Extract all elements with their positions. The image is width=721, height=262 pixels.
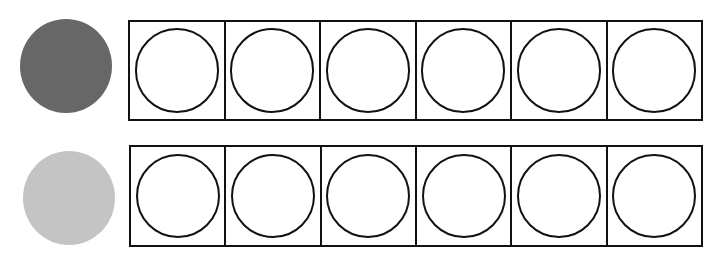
empty-slot-circle: [517, 28, 601, 112]
empty-slot-circle: [612, 28, 696, 112]
counter-light: [23, 151, 115, 245]
frame-cell: [608, 147, 701, 245]
frame-cell: [512, 22, 608, 119]
ten-frame-bottom: [129, 145, 703, 247]
counter-dark: [20, 19, 112, 113]
empty-slot-circle: [231, 154, 315, 238]
empty-slot-circle: [326, 28, 410, 112]
frame-cell: [322, 147, 417, 245]
empty-slot-circle: [517, 154, 601, 238]
frame-cell: [512, 147, 607, 245]
empty-slot-circle: [421, 28, 505, 112]
empty-slot-circle: [230, 28, 314, 112]
empty-slot-circle: [612, 154, 696, 238]
ten-frame-top: [128, 20, 703, 121]
frame-cell: [226, 22, 322, 119]
frame-cell: [131, 147, 226, 245]
empty-slot-circle: [135, 28, 219, 112]
empty-slot-circle: [422, 154, 506, 238]
frame-cell: [417, 147, 512, 245]
frame-cell: [608, 22, 702, 119]
empty-slot-circle: [326, 154, 410, 238]
frame-cell: [226, 147, 321, 245]
frame-cell: [417, 22, 513, 119]
frame-cell: [130, 22, 226, 119]
empty-slot-circle: [136, 154, 220, 238]
frame-cell: [321, 22, 417, 119]
